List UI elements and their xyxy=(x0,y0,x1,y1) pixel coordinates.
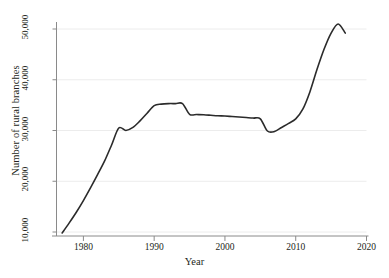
data-series-line xyxy=(62,24,345,233)
x-tick-label: 2020 xyxy=(347,242,387,252)
x-axis-title: Year xyxy=(0,256,389,267)
x-tick-label: 1980 xyxy=(63,242,103,252)
x-tick-label: 1990 xyxy=(134,242,174,252)
x-tick-label: 2000 xyxy=(205,242,245,252)
series-line-rural-branches xyxy=(62,24,345,233)
y-tick-label: 50,000 xyxy=(20,2,30,52)
x-tick-label: 2010 xyxy=(276,242,316,252)
y-tick-label: 20,000 xyxy=(20,154,30,204)
y-axis-title-text: Number of rural branches xyxy=(10,65,21,176)
y-tick-label: 40,000 xyxy=(20,53,30,103)
axis-lines xyxy=(52,22,369,236)
chart-figure: Number of rural branches Year 10,00020,0… xyxy=(0,0,389,278)
y-tick-label: 10,000 xyxy=(20,205,30,255)
y-tick-label: 30,000 xyxy=(20,104,30,154)
line-chart-plot xyxy=(0,0,389,278)
